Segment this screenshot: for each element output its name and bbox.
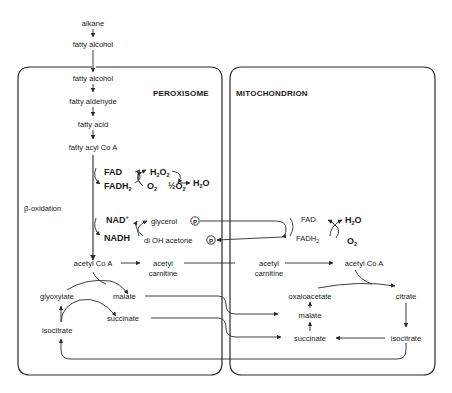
fadh2-label: FADH2: [104, 181, 132, 192]
malate-label: malate: [113, 292, 136, 301]
h2o-label: H2O: [193, 178, 210, 189]
isocitrate-return-arrow-icon: [61, 339, 406, 359]
mito-fad-label: FAD: [301, 215, 316, 224]
fad-label: FAD: [104, 167, 123, 177]
fatty-alcohol-label: fatty alcohol: [73, 74, 114, 83]
curved-arrow-icon: [290, 218, 293, 236]
acetyl-coa-join-line: [355, 270, 372, 284]
malate-transport-arrow-icon: [145, 296, 278, 314]
succinate-label: succinate: [107, 314, 139, 323]
mito-o2-label: O2: [347, 236, 357, 247]
acetyl-coa-label: acetyl Co A: [74, 259, 113, 268]
mitochondrion-title: MITOCHONDRION: [236, 89, 308, 98]
glyoxylate-label: glyoxylate: [40, 292, 74, 301]
fatty-alcohol-outside-label: fatty alcohol: [73, 40, 114, 49]
citrate-label: citrate: [396, 292, 417, 301]
beta-oxidation-label: β-oxidation: [24, 204, 61, 213]
oxaloacetate-citrate-arrow-icon: [318, 283, 395, 288]
nad-reduction-arrow-icon: [95, 218, 100, 235]
acetyl-carnitine-label: acetyl: [153, 259, 173, 268]
phosphate-symbol: P: [193, 219, 197, 225]
mito-h2o-label: H2O: [345, 215, 362, 226]
mito-succinate-label: succinate: [294, 334, 326, 343]
succinate-transport-arrow-icon: [151, 318, 281, 337]
isocitrate-label: isocitrate: [42, 326, 72, 335]
fatty-aldehyde-label: fatty aldehyde: [69, 97, 116, 106]
mito-malate-label: malate: [299, 311, 322, 320]
peroxisome-title: PEROXISOME: [153, 89, 209, 98]
h2o2-label: H2O2: [150, 167, 170, 178]
oxaloacetate-label: oxaloacetate: [288, 292, 331, 301]
acetyl-coa-join-line: [93, 272, 106, 284]
curved-arrow-icon: [138, 221, 147, 236]
fatty-acid-label: fatty acid: [78, 120, 108, 129]
glycerol-shuttle-arrow-icon: [200, 221, 286, 237]
fad-reduction-arrow-icon: [95, 168, 100, 184]
mito-acetyl-coa-label: acetyl Co A: [345, 259, 384, 268]
glycerol-phosphate-label: glycerol: [151, 217, 177, 226]
nadh-label: NADH: [104, 233, 130, 243]
acetyl-carnitine-label-2: carnitine: [149, 269, 178, 278]
dhap-return-arrow-icon: [217, 237, 282, 240]
o2-label: O2: [147, 181, 157, 192]
phosphate-symbol: P: [209, 238, 213, 244]
mito-acetyl-carnitine-label: acetyl: [259, 259, 279, 268]
mito-acetyl-carnitine-label-2: carnitine: [255, 269, 284, 278]
alkane-label: alkane: [82, 19, 104, 28]
nad-label: NAD+: [106, 214, 129, 225]
di-oh-acetone-phosphate-label: di OH acetone: [144, 236, 193, 245]
fatty-acyl-coa-label: fatty acyl Co A: [69, 143, 118, 152]
metabolic-pathway-diagram: PEROXISOME MITOCHONDRION alkane fatty al…: [0, 0, 452, 393]
mito-isocitrate-label: isocitrate: [391, 334, 421, 343]
mito-fadh2-label: FADH2: [296, 234, 319, 244]
